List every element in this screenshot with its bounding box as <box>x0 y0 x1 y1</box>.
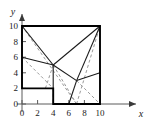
x-tick-label-0: 0 <box>20 108 25 118</box>
solid-segment-2 <box>22 26 53 65</box>
y-tick-label-8: 8 <box>14 37 19 47</box>
solid-segment-5 <box>53 26 100 65</box>
x-tick-label-4: 4 <box>51 108 56 118</box>
y-axis-arrow <box>19 14 25 21</box>
y-tick-label-2: 2 <box>14 83 19 93</box>
y-tick-label-10: 10 <box>9 21 19 31</box>
dashed-segments-group <box>22 26 100 104</box>
x-tick-labels-group: 0 2 4 6 8 10 <box>20 108 105 118</box>
solid-segment-7 <box>77 26 100 81</box>
y-tick-labels-group: 0 2 4 6 8 10 <box>9 21 19 109</box>
solid-segment-8 <box>69 81 77 104</box>
diagram-svg: 0 2 4 6 8 10 0 2 4 6 8 10 x y <box>0 0 160 130</box>
y-tick-label-6: 6 <box>14 52 19 62</box>
figure-container: 0 2 4 6 8 10 0 2 4 6 8 10 x y <box>0 0 160 130</box>
solid-segment-4 <box>53 65 76 81</box>
axes-group <box>17 14 136 112</box>
x-axis-arrow <box>129 101 136 107</box>
x-tick-label-8: 8 <box>82 108 87 118</box>
x-tick-label-10: 10 <box>96 108 106 118</box>
dashed-segment-5 <box>22 57 53 88</box>
y-axis-label: y <box>10 6 16 17</box>
x-tick-label-6: 6 <box>67 108 72 118</box>
x-axis-label: x <box>138 108 144 119</box>
y-tick-label-0: 0 <box>14 99 19 109</box>
x-tick-label-2: 2 <box>35 108 40 118</box>
dashed-segment-7 <box>53 65 76 104</box>
solid-segment-6 <box>77 73 100 81</box>
y-tick-label-4: 4 <box>14 68 19 78</box>
